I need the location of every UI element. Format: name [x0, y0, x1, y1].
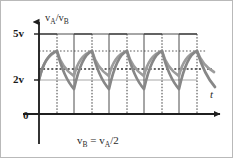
y-axis-title: vA/vB — [45, 12, 69, 27]
y-tick-label-2v: 2v — [13, 74, 24, 85]
axes — [23, 22, 220, 144]
waveform-figure: 5v 2v 0 vA/vB t vB = vA/2 — [0, 0, 233, 158]
x-axis-label: t — [210, 89, 213, 100]
y-axis-title-denominator-sub: B — [64, 17, 69, 26]
y-tick-label-origin: 0 — [23, 110, 29, 121]
y-tick-label-5v: 5v — [13, 28, 24, 39]
figure-caption: vB = vA/2 — [77, 135, 119, 150]
caption-equals: = — [88, 134, 100, 146]
square-wave-vertical-edges — [39, 34, 197, 114]
caption-divisor: /2 — [110, 134, 119, 146]
